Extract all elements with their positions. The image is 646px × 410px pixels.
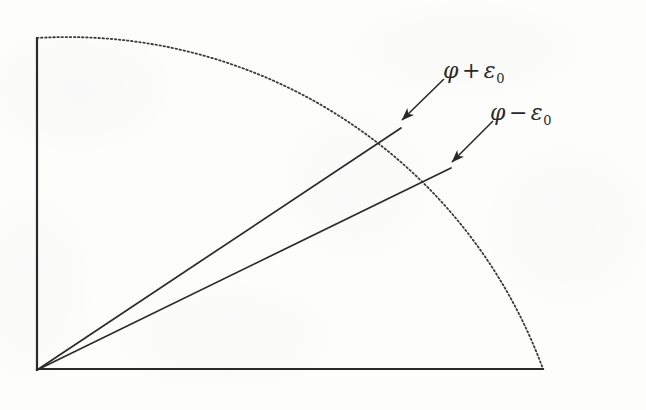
figure-canvas: φ+ε0 φ−ε0 [0, 0, 646, 410]
phi-plus-variable: φ [443, 58, 459, 83]
label-phi-minus-epsilon: φ−ε0 [490, 100, 552, 128]
phi-plus-epsilon: ε [484, 58, 496, 83]
leader-lower-arrow [452, 121, 493, 162]
lower-ray [37, 168, 451, 370]
diagram-svg [0, 0, 646, 410]
upper-ray [37, 128, 401, 370]
phi-plus-operator: + [459, 58, 484, 83]
phi-plus-subscript: 0 [496, 71, 505, 86]
label-phi-plus-epsilon: φ+ε0 [443, 58, 505, 86]
phi-minus-subscript: 0 [543, 113, 552, 128]
phi-minus-operator: − [506, 100, 531, 125]
phi-minus-epsilon: ε [531, 100, 543, 125]
leader-upper-arrow [402, 79, 444, 120]
phi-minus-variable: φ [490, 100, 506, 125]
